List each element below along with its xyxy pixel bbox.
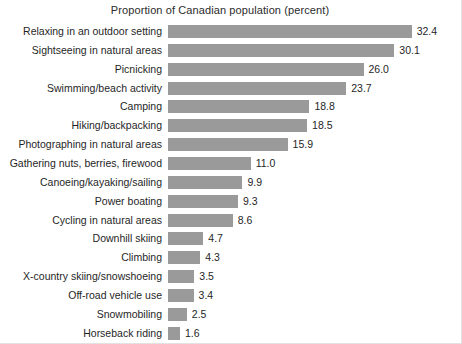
bar-value-label: 4.7	[208, 229, 223, 248]
bar	[168, 327, 180, 340]
bar	[168, 44, 394, 57]
bar-value-label: 18.8	[314, 97, 334, 116]
bar-row: Snowmobiling2.5	[0, 305, 462, 324]
bar-value-label: 15.9	[293, 135, 313, 154]
bar-track: 3.4	[168, 286, 462, 305]
bar-value-label: 1.6	[185, 324, 200, 343]
bar-value-label: 3.4	[199, 286, 214, 305]
bar-category-label: Off-road vehicle use	[0, 286, 162, 305]
bar-category-label: Gathering nuts, berries, firewood	[0, 154, 162, 173]
bar-track: 4.3	[168, 248, 462, 267]
bar	[168, 157, 251, 170]
bar-track: 11.0	[168, 154, 462, 173]
bar-value-label: 8.6	[238, 211, 253, 230]
bar	[168, 82, 346, 95]
bar	[168, 63, 364, 76]
bar-row: Canoeing/kayaking/sailing9.9	[0, 173, 462, 192]
bar-track: 9.9	[168, 173, 462, 192]
bar-category-label: Hiking/backpacking	[0, 116, 162, 135]
bar-track: 18.8	[168, 97, 462, 116]
bar	[168, 214, 233, 227]
plot-area: Relaxing in an outdoor setting32.4Sights…	[0, 22, 462, 338]
bar-category-label: Relaxing in an outdoor setting	[0, 22, 162, 41]
bar-row: Climbing4.3	[0, 248, 462, 267]
bar-category-label: Canoeing/kayaking/sailing	[0, 173, 162, 192]
bar-track: 23.7	[168, 79, 462, 98]
bar-track: 1.6	[168, 324, 462, 343]
bar-value-label: 9.3	[243, 192, 258, 211]
bar-track: 32.4	[168, 22, 462, 41]
bar-category-label: Camping	[0, 97, 162, 116]
bar-row: Camping18.8	[0, 97, 462, 116]
bar-row: Power boating9.3	[0, 192, 462, 211]
bar	[168, 308, 187, 321]
bar-row: Downhill skiing4.7	[0, 229, 462, 248]
bar	[168, 176, 242, 189]
bar-row: Swimming/beach activity23.7	[0, 79, 462, 98]
bar-track: 8.6	[168, 211, 462, 230]
bar-value-label: 3.5	[199, 267, 214, 286]
bar	[168, 270, 194, 283]
bar	[168, 289, 194, 302]
bar-row: Gathering nuts, berries, firewood11.0	[0, 154, 462, 173]
bar	[168, 25, 412, 38]
bar-value-label: 26.0	[369, 60, 389, 79]
bar	[168, 138, 288, 151]
bar-row: Relaxing in an outdoor setting32.4	[0, 22, 462, 41]
bar-row: Hiking/backpacking18.5	[0, 116, 462, 135]
bar	[168, 195, 238, 208]
bar-category-label: Swimming/beach activity	[0, 79, 162, 98]
bar-category-label: Cycling in natural areas	[0, 211, 162, 230]
bar-track: 18.5	[168, 116, 462, 135]
bar-track: 4.7	[168, 229, 462, 248]
bar-category-label: Power boating	[0, 192, 162, 211]
bar	[168, 100, 309, 113]
bar-value-label: 30.1	[399, 41, 419, 60]
bar-row: Off-road vehicle use3.4	[0, 286, 462, 305]
bar	[168, 251, 200, 264]
bar-category-label: Downhill skiing	[0, 229, 162, 248]
bar-track: 30.1	[168, 41, 462, 60]
bar-track: 26.0	[168, 60, 462, 79]
bar	[168, 232, 203, 245]
bar-category-label: Snowmobiling	[0, 305, 162, 324]
bar-category-label: Horseback riding	[0, 324, 162, 343]
bar-row: Picnicking26.0	[0, 60, 462, 79]
bar-row: Sightseeing in natural areas30.1	[0, 41, 462, 60]
bar-value-label: 23.7	[351, 79, 371, 98]
bar-track: 9.3	[168, 192, 462, 211]
bar-row: Cycling in natural areas8.6	[0, 211, 462, 230]
bar-chart-figure: Proportion of Canadian population (perce…	[0, 0, 462, 344]
bar-category-label: X-country skiing/snowshoeing	[0, 267, 162, 286]
bar-track: 3.5	[168, 267, 462, 286]
bar-value-label: 11.0	[256, 154, 276, 173]
bar-value-label: 18.5	[312, 116, 332, 135]
bar	[168, 119, 307, 132]
bar-row: Horseback riding1.6	[0, 324, 462, 343]
bar-row: X-country skiing/snowshoeing3.5	[0, 267, 462, 286]
bar-category-label: Photographing in natural areas	[0, 135, 162, 154]
chart-title: Proportion of Canadian population (perce…	[0, 4, 462, 16]
bar-track: 15.9	[168, 135, 462, 154]
bar-category-label: Climbing	[0, 248, 162, 267]
bar-value-label: 2.5	[192, 305, 207, 324]
bar-row: Photographing in natural areas15.9	[0, 135, 462, 154]
bar-value-label: 4.3	[205, 248, 220, 267]
bar-category-label: Picnicking	[0, 60, 162, 79]
bar-category-label: Sightseeing in natural areas	[0, 41, 162, 60]
bar-track: 2.5	[168, 305, 462, 324]
bar-value-label: 32.4	[417, 22, 437, 41]
bar-value-label: 9.9	[247, 173, 262, 192]
